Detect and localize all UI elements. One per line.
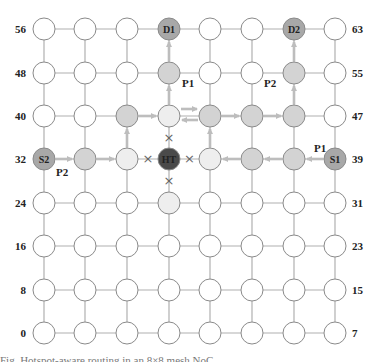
mesh-node: [324, 192, 346, 214]
mesh-node: [158, 235, 180, 257]
path-label-p1: P1: [314, 142, 326, 154]
row-label-right: 39: [352, 153, 364, 165]
row-label-right: 63: [352, 23, 364, 35]
node-label: D2: [288, 24, 300, 35]
row-label-left: 0: [21, 327, 27, 339]
mesh-node: [33, 322, 55, 344]
node-ht: HT: [158, 148, 180, 170]
mesh-diagram: ×××× S2HTS1D1D2 078151623243132394047485…: [0, 0, 376, 362]
blocked-link-icon: ×: [143, 151, 154, 166]
row-label-left: 8: [21, 284, 27, 296]
mesh-node: [283, 62, 305, 84]
row-label-right: 31: [352, 197, 363, 209]
mesh-node: [199, 192, 221, 214]
mesh-node: [241, 148, 263, 170]
mesh-node: [324, 322, 346, 344]
mesh-node: [241, 235, 263, 257]
row-label-right: 7: [352, 327, 358, 339]
node-label: S2: [39, 154, 50, 165]
mesh-node: [158, 279, 180, 301]
mesh-node: [116, 148, 138, 170]
mesh-node: [74, 18, 96, 40]
figure-caption: Fig. Hotspot-aware routing in an 8×8 mes…: [0, 355, 376, 362]
mesh-node: [33, 62, 55, 84]
mesh-node: [324, 279, 346, 301]
mesh-node: [241, 62, 263, 84]
mesh-node: [283, 148, 305, 170]
mesh-node: [283, 235, 305, 257]
mesh-node: [74, 148, 96, 170]
mesh-node: [324, 235, 346, 257]
path-label-p1: P1: [182, 77, 194, 89]
mesh-node: [116, 322, 138, 344]
row-label-left: 40: [15, 110, 27, 122]
route-arrows: [56, 42, 323, 159]
mesh-node: [324, 105, 346, 127]
blocked-link-icon: ×: [184, 151, 195, 166]
mesh-node: [74, 62, 96, 84]
mesh-node: [158, 105, 180, 127]
mesh-node: [199, 148, 221, 170]
node-label: S1: [330, 154, 341, 165]
row-label-right: 47: [352, 110, 364, 122]
mesh-node: [116, 105, 138, 127]
mesh-node: [33, 18, 55, 40]
mesh-node: [241, 322, 263, 344]
mesh-node: [199, 105, 221, 127]
node-s2: S2: [33, 148, 55, 170]
mesh-node: [199, 322, 221, 344]
row-label-left: 16: [15, 240, 27, 252]
mesh-node: [158, 192, 180, 214]
mesh-node: [199, 62, 221, 84]
mesh-node: [116, 192, 138, 214]
node-label: D1: [163, 24, 175, 35]
mesh-node: [199, 18, 221, 40]
mesh-node: [324, 62, 346, 84]
row-labels: 07815162324313239404748555663: [15, 23, 364, 339]
mesh-node: [74, 279, 96, 301]
mesh-node: [199, 279, 221, 301]
mesh-node: [116, 279, 138, 301]
mesh-node: [33, 235, 55, 257]
mesh-node: [283, 192, 305, 214]
mesh-node: [199, 235, 221, 257]
mesh-node: [241, 192, 263, 214]
blocked-link-icon: ×: [164, 173, 175, 188]
row-label-left: 48: [15, 67, 27, 79]
mesh-node: [33, 279, 55, 301]
mesh-node: [283, 105, 305, 127]
mesh-node: [33, 192, 55, 214]
mesh-node: [33, 105, 55, 127]
row-label-left: 32: [15, 153, 27, 165]
path-label-p2: P2: [264, 77, 277, 89]
mesh-node: [158, 322, 180, 344]
mesh-node: [283, 322, 305, 344]
row-label-right: 55: [352, 67, 364, 79]
node-s1: S1: [324, 148, 346, 170]
mesh-node: [74, 235, 96, 257]
row-label-right: 15: [352, 284, 364, 296]
node-label: HT: [162, 154, 177, 165]
mesh-node: [241, 279, 263, 301]
row-label-left: 56: [15, 23, 27, 35]
path-label-p2: P2: [56, 166, 69, 178]
mesh-node: [241, 105, 263, 127]
row-label-right: 23: [352, 240, 364, 252]
mesh-node: [241, 18, 263, 40]
node-d1: D1: [158, 18, 180, 40]
mesh-node: [116, 18, 138, 40]
mesh-nodes: S2HTS1D1D2: [33, 18, 346, 344]
row-label-left: 24: [15, 197, 27, 209]
mesh-node: [74, 322, 96, 344]
node-d2: D2: [283, 18, 305, 40]
blocked-link-icon: ×: [164, 130, 175, 145]
mesh-node: [74, 105, 96, 127]
mesh-node: [158, 62, 180, 84]
mesh-node: [116, 235, 138, 257]
mesh-node: [324, 18, 346, 40]
mesh-node: [116, 62, 138, 84]
mesh-node: [74, 192, 96, 214]
mesh-node: [283, 279, 305, 301]
